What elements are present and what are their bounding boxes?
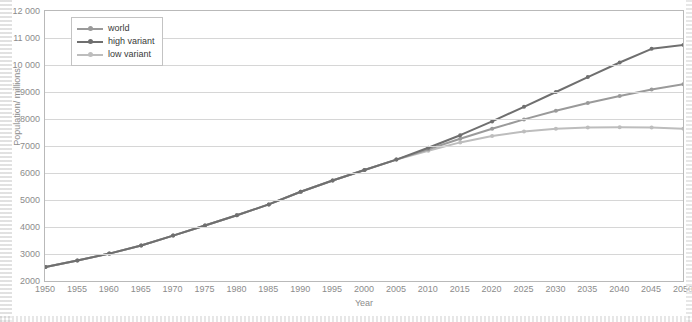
gridline bbox=[45, 200, 683, 201]
series-point-high-variant bbox=[267, 202, 271, 206]
series-point-high-variant bbox=[490, 119, 494, 123]
x-tick-label: 2040 bbox=[609, 284, 629, 294]
x-tick-label: 1950 bbox=[35, 284, 55, 294]
x-tick-label: 2000 bbox=[354, 284, 374, 294]
x-axis-ticks: 1950195519601965197019751980198519901995… bbox=[44, 284, 684, 298]
gridline bbox=[45, 119, 683, 120]
right-edge-artifact bbox=[686, 0, 692, 322]
legend-swatch-low-variant bbox=[77, 49, 103, 60]
series-point-world bbox=[682, 82, 684, 86]
x-tick-label: 2020 bbox=[482, 284, 502, 294]
x-tick-label: 2030 bbox=[545, 284, 565, 294]
series-point-high-variant bbox=[458, 133, 462, 137]
series-point-high-variant bbox=[235, 213, 239, 217]
series-point-high-variant bbox=[650, 47, 654, 51]
series-point-high-variant bbox=[139, 244, 143, 248]
series-line-world bbox=[46, 84, 684, 267]
chart-legend: world high variant low variant bbox=[71, 17, 163, 66]
series-point-low-variant bbox=[682, 127, 684, 131]
series-point-world bbox=[458, 137, 462, 141]
legend-label-world: world bbox=[108, 23, 130, 34]
series-point-world bbox=[650, 88, 654, 92]
legend-item-world[interactable]: world bbox=[77, 22, 155, 35]
series-point-high-variant bbox=[171, 234, 175, 238]
series-point-low-variant bbox=[650, 126, 654, 130]
gridline bbox=[45, 254, 683, 255]
series-point-low-variant bbox=[522, 129, 526, 133]
legend-label-high-variant: high variant bbox=[108, 36, 155, 47]
series-point-world bbox=[618, 94, 622, 98]
x-tick-label: 1960 bbox=[99, 284, 119, 294]
x-tick-label: 1990 bbox=[290, 284, 310, 294]
series-point-high-variant bbox=[682, 43, 684, 47]
x-tick-label: 1985 bbox=[258, 284, 278, 294]
series-point-high-variant bbox=[618, 61, 622, 65]
plot-frame: world high variant low variant bbox=[44, 10, 684, 282]
series-point-high-variant bbox=[363, 168, 367, 172]
series-point-high-variant bbox=[586, 75, 590, 79]
legend-label-low-variant: low variant bbox=[108, 49, 151, 60]
x-tick-label: 2005 bbox=[386, 284, 406, 294]
series-point-high-variant bbox=[522, 105, 526, 109]
series-point-world bbox=[586, 101, 590, 105]
gridline bbox=[45, 92, 683, 93]
series-point-high-variant bbox=[45, 265, 48, 269]
series-point-high-variant bbox=[331, 179, 335, 183]
x-tick-label: 1975 bbox=[194, 284, 214, 294]
series-point-high-variant bbox=[394, 158, 398, 162]
series-point-low-variant bbox=[618, 125, 622, 129]
series-point-high-variant bbox=[75, 259, 79, 263]
x-axis-title: Year bbox=[44, 298, 684, 308]
x-tick-label: 1980 bbox=[226, 284, 246, 294]
series-point-low-variant bbox=[458, 140, 462, 144]
x-tick-label: 2035 bbox=[577, 284, 597, 294]
series-point-high-variant bbox=[299, 190, 303, 194]
legend-item-high-variant[interactable]: high variant bbox=[77, 35, 155, 48]
gridline bbox=[45, 173, 683, 174]
series-point-low-variant bbox=[554, 127, 558, 131]
legend-swatch-world bbox=[77, 23, 103, 34]
x-tick-label: 2015 bbox=[450, 284, 470, 294]
gridline bbox=[45, 227, 683, 228]
bottom-edge-artifact bbox=[0, 316, 692, 322]
series-point-world bbox=[490, 127, 494, 131]
x-tick-label: 2025 bbox=[513, 284, 533, 294]
gridline bbox=[45, 146, 683, 147]
series-point-low-variant bbox=[586, 126, 590, 130]
x-tick-label: 2010 bbox=[418, 284, 438, 294]
x-tick-label: 2045 bbox=[641, 284, 661, 294]
series-point-world bbox=[554, 109, 558, 113]
left-edge-artifact bbox=[0, 0, 12, 322]
x-tick-label: 1970 bbox=[163, 284, 183, 294]
x-tick-label: 1965 bbox=[131, 284, 151, 294]
x-tick-label: 1955 bbox=[67, 284, 87, 294]
population-projection-chart: Population/ millions 2000300040005000600… bbox=[0, 0, 692, 322]
legend-swatch-high-variant bbox=[77, 36, 103, 47]
x-tick-label: 1995 bbox=[322, 284, 342, 294]
series-point-low-variant bbox=[490, 134, 494, 138]
legend-item-low-variant[interactable]: low variant bbox=[77, 48, 155, 61]
